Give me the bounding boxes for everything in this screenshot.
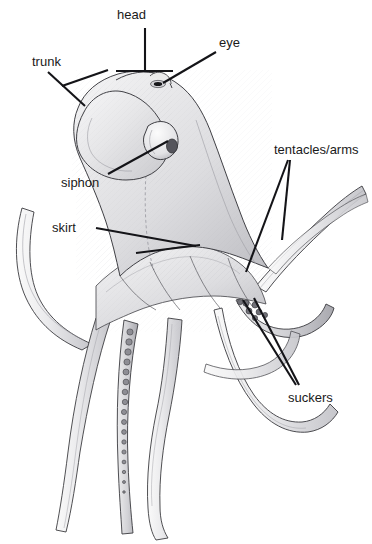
tentacle-left-1 [56, 318, 110, 532]
octopus-anatomy-diagram: head eye trunk tentacles/arms siphon ski… [0, 0, 372, 544]
octopus-drawing [16, 70, 368, 540]
octopus-illustration [0, 0, 372, 544]
siphon-funnel [143, 122, 178, 160]
tentacle-lower-right [204, 331, 300, 379]
label-suckers: suckers [288, 391, 333, 405]
label-tentacles-arms: tentacles/arms [274, 143, 359, 157]
label-eye: eye [219, 36, 240, 50]
tentacle-center [147, 318, 182, 540]
label-skirt: skirt [52, 221, 76, 235]
label-siphon: siphon [61, 176, 99, 190]
eye-marking [151, 80, 166, 87]
tentacle-left-2 [117, 320, 138, 534]
label-head: head [117, 8, 146, 22]
label-trunk: trunk [32, 55, 61, 69]
